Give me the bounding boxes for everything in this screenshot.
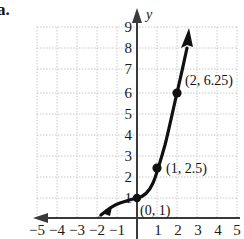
y-tick-label: 5 [125,106,133,122]
y-axis-up-arrowhead [132,8,142,23]
data-point-marker [172,88,181,97]
exponential-curve [96,28,193,219]
coordinate-plane-chart: y −5 −4 −3 −2 −1 1 2 3 4 5 1 2 3 4 5 6 7… [0,0,244,239]
y-axis-label: y [144,7,153,22]
y-tick-label: 9 [125,19,133,35]
y-tick-label: 7 [125,61,133,77]
y-tick-label: 8 [125,40,133,56]
curve-up-arrowhead [181,28,193,48]
data-point-marker [152,163,161,172]
curve-path [101,48,187,215]
figure-container: a. [0,0,244,239]
x-tick-label: 3 [194,222,202,238]
y-tick-label: 3 [125,148,133,164]
x-tick-label: 1 [154,222,162,238]
y-tick-label: 2 [125,169,133,185]
x-tick-label: −4 [49,222,65,238]
data-point-label-origin: (0, 1) [140,203,171,219]
x-tick-label: −3 [69,222,85,238]
data-point-label-two: (2, 6.25) [185,73,233,89]
x-tick-label: −1 [109,222,125,238]
x-tick-label: −2 [89,222,105,238]
y-tick-label: 6 [125,85,133,101]
x-tick-label: 5 [233,222,241,238]
x-tick-label: −5 [29,222,45,238]
x-tick-label: 2 [174,222,182,238]
x-tick-label: 4 [214,222,222,238]
y-tick-label: 4 [125,127,133,143]
data-point-label-one: (1, 2.5) [166,161,207,177]
data-point-marker [133,194,141,202]
